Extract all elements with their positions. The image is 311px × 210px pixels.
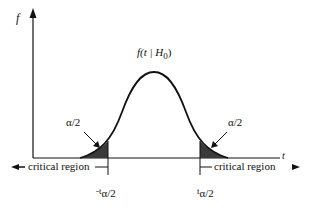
left-cutoff-label: -tα/2 [96,187,116,199]
density-curve [80,72,228,158]
x-axis-label: t [282,151,285,161]
right-arrow-icon [292,164,300,170]
y-axis-arrow-icon [30,8,37,18]
left-arrow-icon [11,164,19,170]
right-cutoff-label: tα/2 [197,187,214,199]
left-tail-label: α/2 [66,117,80,128]
curve-label: f(t | H0) [137,47,171,61]
distribution-diagram [0,0,311,210]
right-tail-label: α/2 [228,117,242,128]
left-critical-region-label: critical region [28,161,89,172]
right-pointer [214,132,227,145]
y-axis-label: f [16,12,19,24]
left-pointer [84,132,97,145]
right-critical-region-label: critical region [214,161,275,172]
